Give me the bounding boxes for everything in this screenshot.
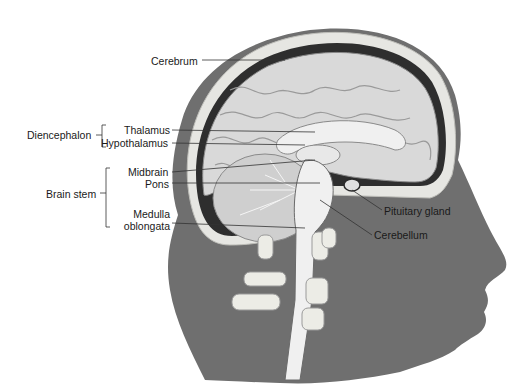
label-medulla: Medulla xyxy=(125,208,170,220)
brain-diagram: Cerebrum Diencephalon Thalamus Hypothala… xyxy=(0,0,525,390)
label-oblongata: oblongata xyxy=(110,220,170,232)
label-pons: Pons xyxy=(145,178,169,190)
label-diencephalon: Diencephalon xyxy=(27,129,91,141)
label-thalamus: Thalamus xyxy=(124,124,170,136)
label-midbrain: Midbrain xyxy=(128,166,168,178)
label-cerebellum: Cerebellum xyxy=(374,229,428,241)
pituitary xyxy=(344,179,360,191)
label-brain-stem: Brain stem xyxy=(46,188,96,200)
label-hypothalamus: Hypothalamus xyxy=(101,137,168,149)
label-cerebrum: Cerebrum xyxy=(151,55,198,67)
label-pituitary-gland: Pituitary gland xyxy=(384,205,451,217)
